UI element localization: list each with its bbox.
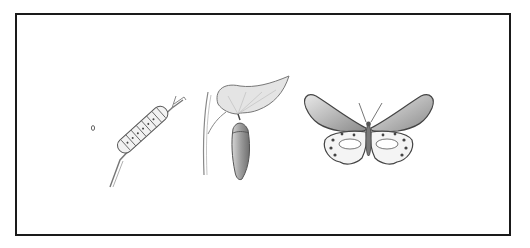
chrysalis-stage	[203, 76, 289, 180]
life-cycle-illustration	[0, 0, 530, 248]
egg-stage	[91, 126, 94, 131]
butterfly-stage	[305, 95, 434, 164]
caterpillar-stage	[110, 96, 186, 187]
